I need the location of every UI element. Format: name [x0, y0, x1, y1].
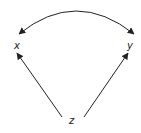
node-x-label: x	[13, 40, 20, 51]
edge-z-x	[17, 53, 62, 117]
edge-z-y	[84, 53, 128, 117]
node-y-label: y	[126, 40, 134, 51]
node-z-label: z	[68, 115, 75, 126]
diagram-canvas: x y z	[0, 0, 141, 133]
diagram-svg: x y z	[0, 0, 141, 133]
edge-x-y-bidirected	[19, 11, 134, 34]
